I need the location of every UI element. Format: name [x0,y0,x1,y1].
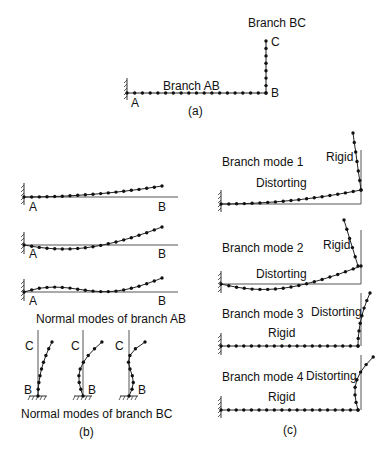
node-dot [131,374,134,377]
node-dot [356,264,359,267]
node-dot [137,285,140,288]
node-dot [145,282,148,285]
node-dot [42,361,45,364]
node-dot [79,388,82,391]
node-dot [107,242,110,245]
node-dot [81,394,84,397]
node-c-label: C [71,339,80,353]
node-dot [38,374,41,377]
panel-c-caption: (c) [283,423,297,437]
node-dot [93,347,96,350]
node-dot [288,344,291,347]
node-dot [45,247,48,250]
node-a-label: A [131,96,139,110]
node-dot [311,344,314,347]
node-dot [264,76,267,79]
node-dot [22,195,25,198]
node-dot [78,381,81,384]
node-dot [258,288,261,291]
node-dot [273,344,276,347]
node-dot [132,381,135,384]
node-dot [38,287,41,290]
node-dot [297,284,300,287]
node-dot [130,236,133,239]
node-dot [125,91,128,94]
node-dot [345,228,348,231]
node-dot [226,91,229,94]
mode-3-horizontal-label: Rigid [268,326,295,340]
node-dot [328,194,331,197]
node-dot [282,200,285,203]
node-b-label: B [88,383,96,397]
node-dot [114,190,117,193]
node-dot [320,195,323,198]
node-b-label: B [158,200,166,214]
node-dot [357,329,360,332]
node-dot [128,367,131,370]
node-dot [357,169,360,172]
node-dot [258,201,261,204]
node-dot [274,200,277,203]
node-dot [358,179,361,182]
node-c-label: C [115,339,124,353]
branch-modes-diagram: Branch BC Branch AB A B C (a) A B A B A … [0,0,389,457]
node-dot [362,306,365,309]
node-dot [342,218,345,221]
fixed-support-icon [218,396,221,418]
node-dot [122,288,125,291]
node-dot [127,394,130,397]
node-dot [40,367,43,370]
node-dot [264,91,267,94]
node-b-label: B [158,247,166,261]
node-dot [219,202,222,205]
bc-mode-2: C B [71,330,104,400]
node-dot [303,344,306,347]
node-dot [91,245,94,248]
node-dot [114,289,117,292]
node-dot [87,354,90,357]
node-dot [153,279,156,282]
node-dot [313,196,316,199]
node-dot [257,408,260,411]
node-dot [368,291,371,294]
fixed-support-icon [218,333,221,355]
node-dot [149,91,152,94]
node-dot [153,228,156,231]
node-dot [297,198,300,201]
node-dot [303,408,306,411]
node-dot [241,91,244,94]
node-dot [61,286,64,289]
node-dot [257,344,260,347]
node-dot [53,247,56,250]
node-dot [68,286,71,289]
node-dot [22,290,25,293]
node-dot [36,394,39,397]
node-dot [264,62,267,65]
node-dot [91,193,94,196]
node-dot [349,344,352,347]
node-dot [250,344,253,347]
mode-4-horizontal-label: Rigid [268,390,295,404]
node-dot [235,286,238,289]
node-dot [318,344,321,347]
node-dot [233,91,236,94]
node-dot [219,344,222,347]
node-dot [356,344,359,347]
node-dot [243,287,246,290]
node-dot [137,188,140,191]
node-dot [354,401,357,404]
node-dot [289,285,292,288]
node-dot [264,54,267,57]
node-dot [227,284,230,287]
node-dot [76,194,79,197]
node-dot [354,150,357,153]
node-dot [128,354,131,357]
node-a-label: A [29,247,37,261]
node-dot [130,287,133,290]
node-dot [344,191,347,194]
node-dot [143,340,146,343]
node-dot [341,408,344,411]
node-dot [45,195,48,198]
node-dot [250,408,253,411]
panel-a-caption: (a) [188,104,203,118]
